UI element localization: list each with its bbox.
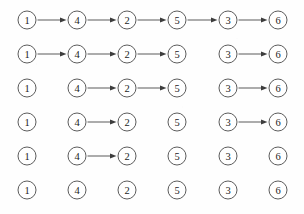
graph-node-label: 2 <box>124 185 129 196</box>
graph-sequence-figure: 142536142536142536142536142536142536 <box>0 0 304 214</box>
graph-node-label: 6 <box>275 185 280 196</box>
graph-node-label: 6 <box>275 117 280 128</box>
graph-node-label: 5 <box>174 49 179 60</box>
graph-node-label: 1 <box>24 83 29 94</box>
graph-node-label: 4 <box>74 117 80 128</box>
edge-arrowhead <box>110 17 117 22</box>
graph-node-label: 1 <box>24 49 29 60</box>
graph-node-label: 4 <box>74 185 80 196</box>
graph-node-label: 6 <box>275 49 280 60</box>
graph-sequence-canvas: 142536142536142536142536142536142536 <box>0 0 304 214</box>
edge-arrowhead <box>261 85 268 90</box>
graph-node-label: 4 <box>74 83 80 94</box>
edge-arrowhead <box>261 17 268 22</box>
graph-node-label: 2 <box>124 151 129 162</box>
graph-node-label: 4 <box>74 15 80 26</box>
edge-arrowhead <box>211 17 218 22</box>
graph-node-label: 4 <box>74 49 80 60</box>
graph-row: 142536 <box>18 79 287 97</box>
graph-node-label: 2 <box>124 49 129 60</box>
graph-node-label: 2 <box>124 117 129 128</box>
graph-node-label: 6 <box>275 15 280 26</box>
edge-arrowhead <box>110 153 117 158</box>
edge-arrowhead <box>60 51 67 56</box>
graph-node-label: 3 <box>225 151 230 162</box>
graph-node-label: 3 <box>225 185 230 196</box>
graph-node-label: 3 <box>225 117 230 128</box>
edge-arrowhead <box>110 85 117 90</box>
graph-row: 142536 <box>18 11 287 29</box>
graph-row: 142536 <box>18 113 287 131</box>
graph-node-label: 2 <box>124 83 129 94</box>
graph-node-label: 5 <box>174 185 179 196</box>
graph-node-label: 1 <box>24 151 29 162</box>
graph-node-label: 2 <box>124 15 129 26</box>
graph-node-label: 5 <box>174 151 179 162</box>
graph-node-label: 1 <box>24 185 29 196</box>
edge-arrowhead <box>60 17 67 22</box>
graph-node-label: 5 <box>174 83 179 94</box>
graph-node-label: 3 <box>225 49 230 60</box>
graph-node-label: 1 <box>24 117 29 128</box>
graph-node-label: 6 <box>275 83 280 94</box>
edge-arrowhead <box>160 51 167 56</box>
graph-node-label: 3 <box>225 15 230 26</box>
graph-node-label: 6 <box>275 151 280 162</box>
edge-arrowhead <box>160 17 167 22</box>
graph-node-label: 3 <box>225 83 230 94</box>
graph-node-label: 5 <box>174 15 179 26</box>
edge-arrowhead <box>110 51 117 56</box>
graph-row: 142536 <box>18 181 287 199</box>
edge-arrowhead <box>160 85 167 90</box>
graph-row: 142536 <box>18 147 287 165</box>
graph-row: 142536 <box>18 45 287 63</box>
edge-arrowhead <box>261 119 268 124</box>
graph-node-label: 1 <box>24 15 29 26</box>
edge-arrowhead <box>110 119 117 124</box>
edge-arrowhead <box>261 51 268 56</box>
graph-node-label: 5 <box>174 117 179 128</box>
graph-node-label: 4 <box>74 151 80 162</box>
